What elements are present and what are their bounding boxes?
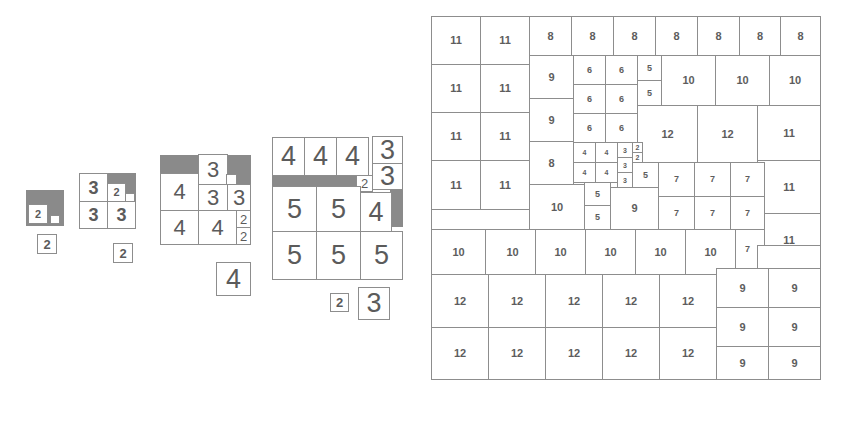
cell-12: 12: [488, 327, 546, 380]
cell-8: 8: [780, 16, 821, 56]
panel-order-4: 3 4 3 3 4 4 2 2: [160, 155, 251, 245]
panel-large-grid: 11 11 11 11 11 11 11 11 8 8 8 8 8 8 8 9 …: [431, 16, 821, 380]
cell-8: 8: [697, 16, 740, 56]
cell-9: 9: [716, 346, 769, 380]
cell-4: 4: [595, 142, 618, 163]
cell-5-b3: 5: [360, 231, 403, 280]
cell-11: 11: [431, 64, 481, 113]
cell-5: 5: [632, 162, 659, 188]
cell-12: 12: [602, 274, 660, 328]
cell-8: 8: [739, 16, 781, 56]
cell-10: 10: [535, 229, 586, 275]
cell-4: 4: [573, 142, 596, 163]
cell-3-d: 3: [107, 201, 136, 229]
cell-12: 12: [637, 105, 698, 163]
cell-blank: [50, 215, 60, 224]
cell-12: 12: [431, 327, 489, 380]
cell-8: 8: [613, 16, 656, 56]
cell-5: 5: [584, 182, 611, 206]
cell-9: 9: [716, 307, 769, 347]
cell-6: 6: [605, 113, 638, 143]
cell-5-b1: 5: [272, 231, 317, 280]
panel-3-label: 4: [216, 262, 251, 296]
cell-12: 12: [431, 274, 489, 328]
cell-3-t4: 3: [372, 136, 403, 164]
cell-12: 12: [659, 327, 717, 380]
cell-5-m1: 5: [272, 186, 317, 232]
cell-4-t2: 4: [304, 137, 337, 176]
cell-3-right: 3: [227, 184, 251, 212]
cell-3: 3: [617, 142, 633, 158]
cell-9: 9: [529, 98, 574, 142]
figure-canvas: 2 2 3 2 3 3 2 3 4 3 3 4 4 2 2 4 4 4 4 3 …: [0, 0, 850, 426]
cell-9: 9: [529, 55, 574, 99]
cell-5-b2: 5: [316, 231, 361, 280]
cell-12: 12: [659, 274, 717, 328]
cell-11: 11: [480, 112, 530, 161]
panel-order-2: 2: [26, 190, 64, 226]
panel-4-label-3: 3: [358, 287, 390, 320]
cell-4: 4: [573, 162, 596, 183]
cell-10: 10: [715, 55, 770, 106]
cell-10: 10: [585, 229, 636, 275]
cell-8: 8: [529, 16, 572, 56]
cell-4-t1: 4: [272, 137, 305, 176]
cell-8: 8: [571, 16, 614, 56]
cell-5: 5: [584, 205, 611, 230]
cell-10: 10: [769, 55, 821, 106]
cell-3-mid: 3: [198, 184, 228, 212]
cell-9: 9: [716, 268, 769, 308]
cell-3-t5: 3: [372, 163, 403, 190]
cell-7: 7: [658, 196, 695, 230]
cell-6: 6: [605, 55, 638, 85]
cell-9: 9: [768, 268, 821, 308]
cell-10: 10: [431, 229, 486, 275]
cell-3-a: 3: [79, 173, 108, 202]
cell-3-top: 3: [198, 154, 228, 185]
cell-11: 11: [480, 160, 530, 210]
panel-1-label: 2: [37, 234, 57, 254]
cell-3-c: 3: [79, 201, 108, 229]
cell-7: 7: [730, 162, 765, 197]
cell-9: 9: [610, 187, 659, 230]
cell-6: 6: [605, 84, 638, 114]
cell-5-m2: 5: [316, 186, 361, 232]
cell-3: 3: [617, 172, 633, 188]
cell-2: 2: [28, 204, 48, 224]
cell-4-bl: 4: [160, 210, 199, 245]
cell-10: 10: [529, 184, 585, 230]
cell-11: 11: [431, 112, 481, 161]
cell-12: 12: [602, 327, 660, 380]
cell-8: 8: [529, 141, 574, 185]
cell-10: 10: [635, 229, 686, 275]
cell-6: 6: [573, 84, 606, 114]
cell-9: 9: [768, 307, 821, 347]
cell-8: 8: [655, 16, 698, 56]
panel-order-5: 4 4 4 3 3 2 5 5 4 5 5 5: [272, 137, 403, 280]
cell-4-t3: 4: [336, 137, 369, 176]
cell-6: 6: [573, 55, 606, 85]
panel-order-3: 3 2 3 3: [79, 173, 136, 229]
cell-5: 5: [637, 80, 662, 106]
cell-6: 6: [573, 113, 606, 143]
cell-4-m3: 4: [360, 192, 392, 232]
cell-11: 11: [757, 105, 821, 161]
cell-11: 11: [480, 64, 530, 113]
cell-7: 7: [658, 162, 695, 197]
cell-12: 12: [488, 274, 546, 328]
cell-3: 3: [617, 157, 633, 173]
cell-2-br1: 2: [236, 210, 251, 228]
cell-11: 11: [757, 160, 821, 214]
cell-5: 5: [637, 55, 662, 81]
cell-11: 11: [480, 16, 530, 65]
cell-4-bm: 4: [198, 210, 237, 245]
cell-7: 7: [730, 196, 765, 230]
panel-2-label: 2: [113, 243, 133, 263]
cell-10: 10: [485, 229, 540, 275]
cell-2-b: 2: [107, 183, 126, 202]
cell-4: 4: [595, 162, 618, 183]
cell-4-left: 4: [160, 173, 199, 211]
cell-7: 7: [694, 162, 731, 197]
cell-11: 11: [431, 16, 481, 65]
cell-12: 12: [545, 274, 603, 328]
